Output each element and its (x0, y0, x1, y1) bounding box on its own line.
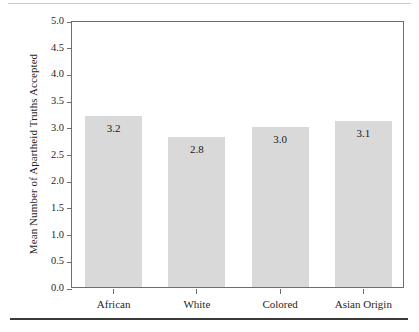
x-axis-tick-mark (280, 289, 281, 294)
bar-asian-origin: 3.1 (335, 121, 392, 287)
y-axis-tick-label: 4.0 (24, 68, 64, 79)
y-axis-tick-mark (67, 208, 72, 209)
bar-value-label: 2.8 (168, 143, 225, 155)
y-axis-tick-mark (67, 155, 72, 156)
bar-colored: 3.0 (252, 127, 309, 287)
y-axis-tick-mark (67, 262, 72, 263)
y-axis-tick-mark (67, 235, 72, 236)
plot-area: 0.00.51.01.52.02.53.03.54.04.55.03.2Afri… (71, 21, 404, 288)
bar-value-label: 3.0 (252, 133, 309, 145)
bar-value-label: 3.1 (335, 127, 392, 139)
x-axis-tick-mark (363, 289, 364, 294)
x-axis-tick-mark (113, 289, 114, 294)
bar-white: 2.8 (168, 137, 225, 287)
y-axis-tick-label: 3.0 (24, 122, 64, 133)
y-axis-tick-mark (67, 128, 72, 129)
top-divider-rule (8, 3, 411, 4)
x-axis-tick-mark (196, 289, 197, 294)
y-axis-tick-label: 0.5 (24, 255, 64, 266)
y-axis-tick-label: 2.5 (24, 149, 64, 160)
y-axis-tick-label: 1.0 (24, 229, 64, 240)
y-axis-tick-label: 2.0 (24, 175, 64, 186)
y-axis-tick-mark (67, 75, 72, 76)
bottom-divider-rule (10, 318, 408, 320)
figure-root: Mean Number of Apartheid Truths Accepted… (0, 0, 419, 332)
y-axis-tick-label: 4.5 (24, 42, 64, 53)
bar-african: 3.2 (85, 116, 142, 287)
x-axis-category-label: Asian Origin (303, 298, 419, 310)
y-axis-tick-mark (67, 182, 72, 183)
y-axis-tick-label: 5.0 (24, 15, 64, 26)
bar-value-label: 3.2 (85, 122, 142, 134)
y-axis-tick-label: 0.0 (24, 282, 64, 293)
y-axis-tick-mark (67, 102, 72, 103)
y-axis-tick-mark (67, 289, 72, 290)
y-axis-tick-label: 3.5 (24, 95, 64, 106)
y-axis-tick-label: 1.5 (24, 202, 64, 213)
y-axis-tick-mark (67, 22, 72, 23)
y-axis-tick-mark (67, 48, 72, 49)
